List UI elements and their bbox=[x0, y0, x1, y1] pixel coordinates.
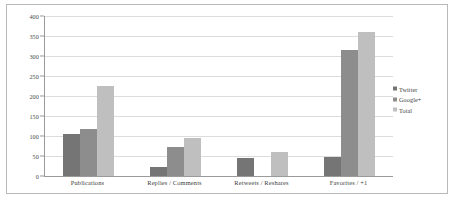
chart-frame: 400350300250200150100500 PublicationsRep… bbox=[6, 4, 448, 194]
legend-item[interactable]: Google+ bbox=[393, 96, 441, 103]
y-axis-tick-label: 200 bbox=[29, 93, 39, 100]
x-axis-tick-labels: PublicationsReplies / CommentsRetweets /… bbox=[44, 179, 392, 186]
legend-item-label: Google+ bbox=[399, 96, 421, 103]
y-axis-tick-label: 0 bbox=[36, 173, 39, 180]
bar[interactable] bbox=[150, 167, 167, 176]
legend-item-label: Total bbox=[399, 106, 412, 113]
bar-group bbox=[219, 16, 306, 176]
bar[interactable] bbox=[358, 32, 375, 176]
bar[interactable] bbox=[341, 50, 358, 176]
bar[interactable] bbox=[237, 158, 254, 176]
bar-group bbox=[45, 16, 132, 176]
legend-swatch-icon bbox=[393, 108, 397, 112]
y-axis-tick-label: 400 bbox=[29, 13, 39, 20]
legend-swatch-icon bbox=[393, 87, 397, 91]
bar[interactable] bbox=[271, 152, 288, 176]
bar-group bbox=[132, 16, 219, 176]
chart-plot-wrapper: 400350300250200150100500 PublicationsRep… bbox=[7, 5, 447, 193]
bar[interactable] bbox=[167, 147, 184, 176]
bar[interactable] bbox=[324, 157, 341, 176]
legend-item[interactable]: Twitter bbox=[393, 85, 441, 92]
y-axis-tick-label: 350 bbox=[29, 33, 39, 40]
x-axis-tick-label: Replies / Comments bbox=[131, 179, 218, 186]
legend-swatch-icon bbox=[393, 97, 397, 101]
x-axis-tick-label: Retweets / Reshares bbox=[218, 179, 305, 186]
bar-groups bbox=[45, 16, 393, 176]
y-axis-tick-label: 150 bbox=[29, 113, 39, 120]
legend-item[interactable]: Total bbox=[393, 106, 441, 113]
legend-item-label: Twitter bbox=[399, 85, 417, 92]
bar-group bbox=[306, 16, 393, 176]
chart-legend: TwitterGoogle+Total bbox=[393, 82, 441, 117]
y-axis-tick-label: 50 bbox=[33, 153, 39, 160]
bar[interactable] bbox=[63, 134, 80, 176]
y-axis-tick-labels: 400350300250200150100500 bbox=[13, 16, 39, 176]
y-axis-tick-label: 250 bbox=[29, 73, 39, 80]
bar[interactable] bbox=[184, 138, 201, 176]
bar[interactable] bbox=[97, 86, 114, 176]
y-axis-tick-label: 300 bbox=[29, 53, 39, 60]
y-axis-tick-label: 100 bbox=[29, 133, 39, 140]
plot-area bbox=[44, 16, 393, 177]
gridline bbox=[45, 176, 393, 177]
bar[interactable] bbox=[80, 129, 97, 176]
x-axis-tick-label: Favorites / +1 bbox=[305, 179, 392, 186]
x-axis-tick-label: Publications bbox=[44, 179, 131, 186]
